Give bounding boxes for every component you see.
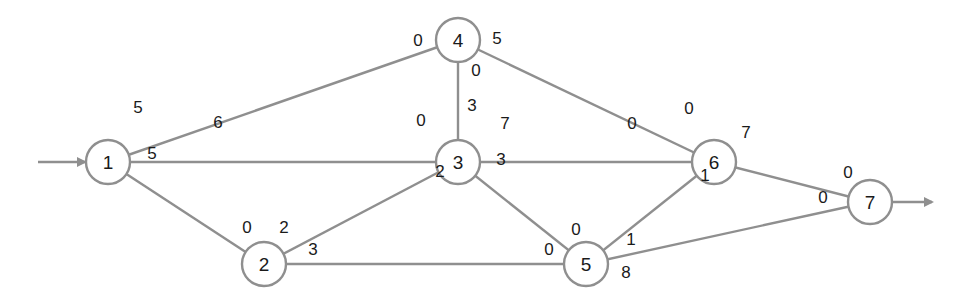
edge-weight-label: 0	[544, 241, 553, 258]
edge-3-5	[458, 162, 586, 264]
edge-weight-label: 0	[416, 112, 425, 129]
node-label-3: 3	[453, 153, 464, 172]
edge-weight-label: 2	[279, 219, 288, 236]
edge-weight-label: 0	[242, 219, 251, 236]
edge-weight-label: 0	[843, 164, 852, 181]
node-label-2: 2	[259, 255, 270, 274]
edge-weight-label: 3	[496, 151, 505, 168]
node-label-4: 4	[453, 31, 464, 50]
edge-1-4	[108, 40, 458, 162]
edges-layer	[108, 40, 870, 264]
node-label-7: 7	[865, 193, 876, 212]
edge-weight-label: 3	[467, 97, 476, 114]
edge-weight-label: 0	[471, 62, 480, 79]
edge-weight-label: 5	[147, 145, 156, 162]
edge-weight-label: 0	[684, 100, 693, 117]
edge-1-2	[108, 162, 264, 264]
edge-weight-label: 7	[741, 124, 750, 141]
edge-2-3	[264, 162, 458, 264]
edge-weight-label: 2	[435, 163, 444, 180]
edge-weight-label: 8	[621, 264, 630, 281]
edge-weight-label: 5	[492, 30, 501, 47]
edge-weight-label: 0	[413, 32, 422, 49]
edge-4-6	[458, 40, 714, 162]
node-label-6: 6	[709, 153, 720, 172]
edge-weight-label: 1	[626, 231, 635, 248]
node-label-1: 1	[103, 153, 114, 172]
edge-5-6	[586, 162, 714, 264]
edge-weight-label: 3	[308, 241, 317, 258]
edge-weight-label: 6	[213, 114, 222, 131]
network-graph	[0, 0, 970, 307]
edge-weight-label: 7	[500, 115, 509, 132]
node-label-5: 5	[581, 255, 592, 274]
nodes-layer	[86, 18, 892, 286]
edge-weight-label: 5	[133, 99, 142, 116]
edge-weight-label: 0	[818, 189, 827, 206]
edge-weight-label: 0	[571, 221, 580, 238]
edge-weight-label: 0	[627, 115, 636, 132]
